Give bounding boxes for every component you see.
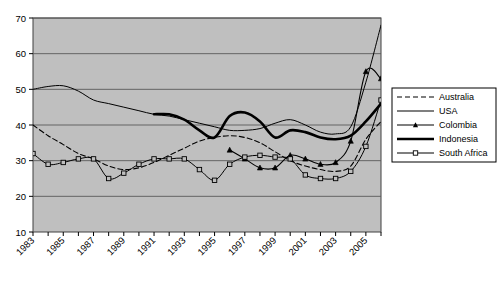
y-axis-labels: 10203040506070 <box>15 13 26 238</box>
data-point-marker <box>364 144 368 148</box>
data-point-marker <box>167 157 171 161</box>
data-point-marker <box>212 178 216 182</box>
data-point-marker <box>318 176 322 180</box>
legend-label: Indonesia <box>439 134 478 144</box>
data-point-marker <box>91 157 95 161</box>
data-point-marker <box>258 153 262 157</box>
data-point-marker <box>46 162 50 166</box>
legend-label: Colombia <box>439 120 477 130</box>
y-tick-label: 10 <box>15 227 26 238</box>
x-tick-label: 1995 <box>195 235 218 258</box>
data-point-marker <box>76 157 80 161</box>
x-tick-label: 1999 <box>256 235 279 258</box>
data-point-marker <box>122 171 126 175</box>
x-tick-label: 1985 <box>44 235 67 258</box>
x-tick-label: 1993 <box>165 235 188 258</box>
line-chart: 10203040506070 1983198519871989199119931… <box>0 0 501 288</box>
legend-label: Australia <box>439 92 474 102</box>
data-point-marker <box>197 167 201 171</box>
data-point-marker <box>227 162 231 166</box>
legend-label: USA <box>439 106 458 116</box>
y-tick-label: 70 <box>15 13 26 24</box>
chart-container: 10203040506070 1983198519871989199119931… <box>0 0 501 288</box>
data-point-marker <box>137 162 141 166</box>
data-point-marker <box>273 155 277 159</box>
x-tick-label: 1989 <box>104 235 127 258</box>
x-tick-label: 2001 <box>286 235 309 258</box>
data-point-marker <box>106 176 110 180</box>
x-axis-ticks <box>33 232 381 236</box>
x-tick-label: 1987 <box>74 235 97 258</box>
data-point-marker <box>182 157 186 161</box>
y-tick-label: 20 <box>15 191 26 202</box>
y-tick-label: 60 <box>15 48 26 59</box>
data-point-marker <box>61 160 65 164</box>
y-tick-label: 50 <box>15 84 26 95</box>
chart-legend: AustraliaUSAColombiaIndonesiaSouth Afric… <box>392 88 496 162</box>
data-point-marker <box>349 169 353 173</box>
x-tick-label: 1983 <box>14 235 37 258</box>
data-point-marker <box>288 157 292 161</box>
x-tick-label: 1997 <box>226 235 249 258</box>
data-point-marker <box>303 173 307 177</box>
x-tick-label: 2005 <box>347 235 370 258</box>
data-point-marker <box>379 98 383 102</box>
y-axis-ticks <box>29 18 33 232</box>
y-tick-label: 30 <box>15 155 26 166</box>
x-tick-label: 1991 <box>135 235 158 258</box>
data-point-marker <box>31 151 35 155</box>
x-axis-labels: 1983198519871989199119931995199719992001… <box>14 235 370 258</box>
data-point-marker <box>152 157 156 161</box>
legend-label: South Africa <box>439 148 488 158</box>
data-point-marker <box>333 176 337 180</box>
legend-marker-square <box>413 151 417 155</box>
x-tick-label: 2003 <box>316 235 339 258</box>
data-point-marker <box>243 155 247 159</box>
y-tick-label: 40 <box>15 120 26 131</box>
